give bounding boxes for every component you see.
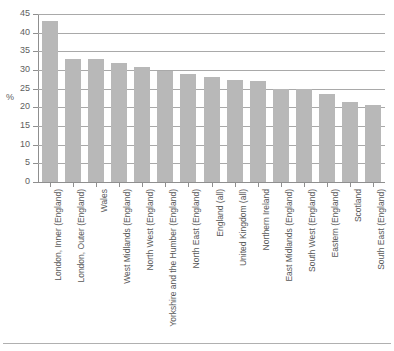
y-tick-label: 15	[0, 121, 30, 130]
x-tick-label: Yorkshire and the Humber (England)	[169, 189, 178, 327]
x-tick-mark	[327, 183, 328, 187]
x-tick-label: North West (England)	[146, 189, 155, 271]
bar[interactable]	[42, 21, 58, 182]
y-tick-label: 10	[0, 140, 30, 149]
x-tick-mark	[73, 183, 74, 187]
y-tick-label: 30	[0, 65, 30, 74]
x-tick-label: East Midlands (England)	[285, 189, 294, 282]
bar[interactable]	[365, 105, 381, 182]
y-tick-mark	[33, 51, 38, 52]
bar[interactable]	[134, 67, 150, 182]
bar[interactable]	[65, 59, 81, 182]
x-tick-label: Eastern (England)	[331, 189, 340, 258]
x-tick-mark	[258, 183, 259, 187]
y-tick-label: 5	[0, 158, 30, 167]
y-tick-mark	[33, 14, 38, 15]
y-tick-label: 45	[0, 9, 30, 18]
y-tick-mark	[33, 70, 38, 71]
gridline	[38, 33, 385, 34]
bar[interactable]	[342, 102, 358, 182]
bar[interactable]	[204, 77, 220, 182]
y-tick-mark	[33, 33, 38, 34]
bar[interactable]	[111, 63, 127, 182]
x-tick-mark	[96, 183, 97, 187]
x-tick-label: London, Inner (England)	[54, 189, 63, 281]
y-tick-label: 0	[0, 177, 30, 186]
x-tick-mark	[50, 183, 51, 187]
x-tick-mark	[142, 183, 143, 187]
bar[interactable]	[227, 80, 243, 182]
x-tick-mark	[373, 183, 374, 187]
x-tick-label: London, Outer (England)	[77, 189, 86, 283]
x-tick-label: Wales	[100, 189, 109, 212]
x-tick-mark	[350, 183, 351, 187]
x-tick-label: Northern Ireland	[262, 189, 271, 250]
x-tick-label: Scotland	[354, 189, 363, 222]
x-tick-mark	[212, 183, 213, 187]
bar[interactable]	[319, 94, 335, 182]
plot-area	[38, 14, 385, 182]
x-tick-mark	[281, 183, 282, 187]
x-tick-label: North East (England)	[192, 189, 201, 268]
x-tick-label: United Kingdom (all)	[239, 189, 248, 266]
x-tick-mark	[188, 183, 189, 187]
y-tick-label: 25	[0, 84, 30, 93]
y-tick-mark	[33, 89, 38, 90]
x-tick-mark	[119, 183, 120, 187]
y-tick-label: 40	[0, 28, 30, 37]
gridline	[38, 14, 385, 15]
bar[interactable]	[296, 89, 312, 182]
gridline	[38, 51, 385, 52]
y-tick-mark	[33, 163, 38, 164]
y-tick-label: 20	[0, 102, 30, 111]
y-tick-mark	[33, 126, 38, 127]
x-axis-labels: London, Inner (England)London, Outer (En…	[38, 183, 385, 343]
x-tick-label: South East (England)	[377, 189, 386, 270]
bar[interactable]	[88, 59, 104, 182]
bar[interactable]	[273, 89, 289, 182]
x-tick-mark	[304, 183, 305, 187]
x-tick-mark	[235, 183, 236, 187]
y-axis-title: %	[6, 92, 14, 102]
y-tick-label: 35	[0, 46, 30, 55]
x-tick-label: West Midlands (England)	[123, 189, 132, 284]
bar[interactable]	[157, 71, 173, 182]
bar[interactable]	[180, 74, 196, 182]
x-tick-mark	[165, 183, 166, 187]
bar-chart: % 454035302520151050 London, Inner (Engl…	[0, 0, 394, 351]
y-tick-mark	[33, 107, 38, 108]
bar[interactable]	[250, 81, 266, 182]
y-tick-mark	[33, 145, 38, 146]
bottom-divider	[3, 343, 391, 344]
x-tick-label: England (all)	[216, 189, 225, 237]
x-tick-label: South West (England)	[308, 189, 317, 272]
